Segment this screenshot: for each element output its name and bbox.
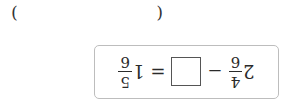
answer-parentheses[interactable]: ( ) [3, 0, 163, 24]
minuend-numerator: 4 [229, 73, 243, 90]
result-fraction: 5 6 [118, 55, 132, 90]
blank-answer-box[interactable] [172, 58, 202, 87]
minuend-mixed-number: 2 4 6 [229, 55, 255, 90]
result-whole: 1 [133, 62, 144, 83]
left-parenthesis: ( [156, 4, 163, 24]
result-mixed-number: 1 5 6 [118, 55, 144, 90]
minuend-fraction: 4 6 [229, 55, 243, 90]
equals-sign: = [150, 62, 165, 83]
minus-sign: − [208, 62, 223, 83]
result-denominator: 6 [118, 55, 132, 73]
right-parenthesis: ) [11, 4, 18, 24]
problem-canvas: ( ) 2 4 6 − = 1 5 6 [0, 0, 283, 106]
equation-box: 2 4 6 − = 1 5 6 [94, 45, 279, 99]
minuend-whole: 2 [243, 62, 254, 83]
result-numerator: 5 [118, 73, 132, 90]
minuend-denominator: 6 [229, 55, 243, 73]
